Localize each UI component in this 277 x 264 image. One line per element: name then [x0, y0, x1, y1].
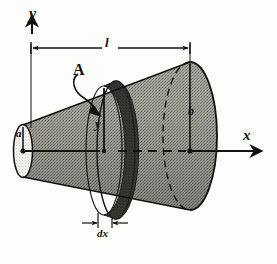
x-axis-label: x — [243, 128, 251, 143]
small-radius-label: a — [16, 128, 22, 139]
slab-thickness-label: dx — [97, 228, 108, 239]
y-axis-label: y — [29, 6, 36, 22]
slab-radius-label: y — [95, 117, 101, 130]
frustum-figure: y l A a y b x dx — [0, 0, 277, 264]
area-label: A — [73, 62, 85, 78]
large-radius-label: b — [188, 105, 194, 117]
frustum-diagram-svg — [0, 0, 277, 264]
length-label: l — [105, 36, 109, 49]
